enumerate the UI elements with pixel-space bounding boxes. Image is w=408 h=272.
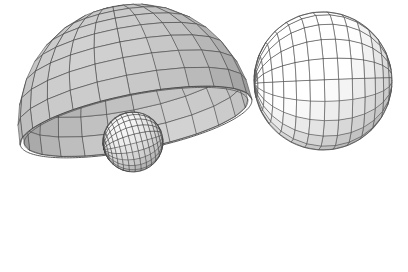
geometry-figure-canvas <box>0 0 408 272</box>
figure-root: Hemispherical bowl with inscribed small … <box>0 0 408 272</box>
